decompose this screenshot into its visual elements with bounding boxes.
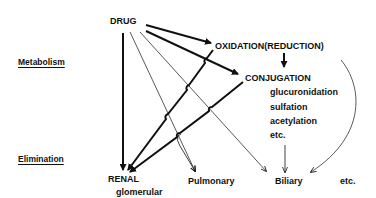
arrow-drug-to-pulmonary: [130, 32, 195, 171]
node-drug: DRUG: [110, 16, 137, 26]
arrow-oxidation-to-biliary: [311, 60, 356, 172]
node-pulmonary: Pulmonary: [188, 176, 235, 186]
drug-metabolism-diagram: Metabolism Elimination DRUG OXIDATION(RE…: [0, 0, 376, 198]
section-metabolism: Metabolism: [18, 57, 65, 67]
node-biliary: Biliary: [275, 176, 303, 186]
conjugation-type-sulfation: sulfation: [270, 102, 308, 112]
node-other-etc: etc.: [340, 176, 356, 186]
section-elimination: Elimination: [18, 154, 64, 164]
node-renal: RENAL: [108, 174, 139, 184]
node-renal-glomerular: glomerular: [116, 187, 163, 197]
node-oxidation: OXIDATION(REDUCTION): [215, 41, 324, 51]
conjugation-type-acetylation: acetylation: [270, 116, 317, 126]
arrow-drug-to-oxidation: [146, 25, 211, 43]
conjugation-type-glucuronidation: glucuronidation: [270, 87, 338, 97]
arrow-oxidation-to-renal: [128, 50, 213, 170]
diagram-arrows: [0, 0, 376, 198]
node-conjugation: CONJUGATION: [245, 73, 311, 83]
conjugation-type-etc: etc.: [270, 130, 286, 140]
